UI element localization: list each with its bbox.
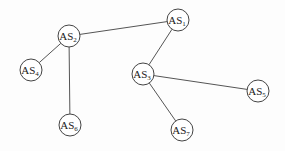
node-as7: AS7	[171, 119, 193, 141]
diagram-svg: AS1AS2AS3AS4AS5AS6AS7	[0, 0, 285, 151]
node-as2: AS2	[58, 25, 80, 47]
as-topology-diagram: AS1AS2AS3AS4AS5AS6AS7	[0, 0, 285, 151]
edge-as3-as7	[149, 83, 175, 121]
edge-as2-as1	[80, 22, 167, 35]
node-as4: AS4	[20, 59, 42, 81]
nodes-layer: AS1AS2AS3AS4AS5AS6AS7	[20, 9, 269, 141]
edge-as3-as5	[154, 76, 247, 90]
node-as3: AS3	[132, 63, 154, 85]
edge-as2-as6	[69, 47, 70, 114]
edge-as2-as4	[39, 43, 61, 62]
node-as1: AS1	[167, 9, 189, 31]
node-as6: AS6	[59, 114, 81, 136]
edge-as1-as3	[149, 29, 172, 65]
node-as5: AS5	[247, 80, 269, 102]
